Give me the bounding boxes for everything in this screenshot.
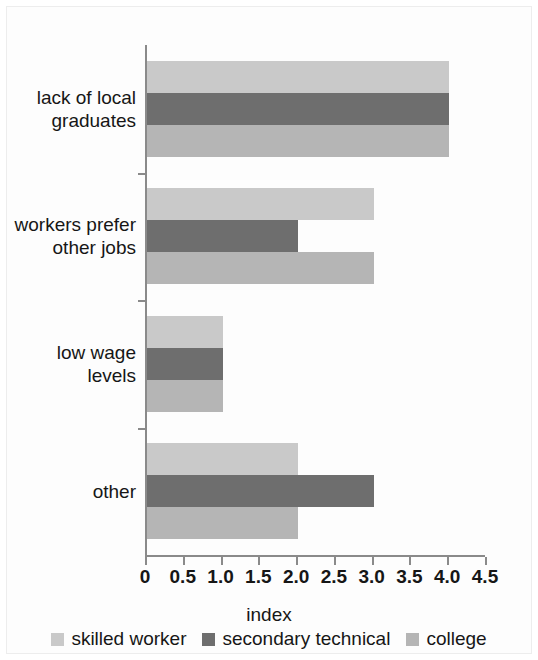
x-axis-line — [145, 555, 485, 557]
x-axis-tick-label: 0 — [140, 566, 151, 588]
category-label: other — [0, 480, 136, 503]
legend-item[interactable]: secondary technical — [202, 628, 390, 650]
bar[interactable] — [147, 220, 298, 252]
legend-item[interactable]: skilled worker — [51, 628, 186, 650]
x-axis-tick-label: 3.5 — [396, 566, 422, 588]
category-axis-tick — [138, 173, 145, 175]
plot-area: 00.51.01.52.02.53.03.54.04.5 — [145, 45, 485, 555]
bar[interactable] — [147, 61, 449, 93]
legend-label: secondary technical — [222, 628, 390, 650]
bar[interactable] — [147, 93, 449, 125]
x-axis-tick — [183, 557, 185, 565]
x-axis-tick — [258, 557, 260, 565]
x-axis-tick — [221, 557, 223, 565]
x-axis-tick — [447, 557, 449, 565]
x-axis-tick-label: 3.0 — [358, 566, 384, 588]
x-axis-tick-label: 1.5 — [245, 566, 271, 588]
x-axis-tick-label: 2.5 — [321, 566, 347, 588]
x-axis-tick-label: 1.0 — [207, 566, 233, 588]
bar[interactable] — [147, 252, 374, 284]
category-label: lack of local graduates — [0, 86, 136, 132]
bar-group — [147, 188, 485, 284]
legend-label: college — [426, 628, 486, 650]
x-axis-tick — [296, 557, 298, 565]
bar[interactable] — [147, 348, 223, 380]
x-axis-tick — [485, 557, 487, 565]
category-axis-tick — [138, 300, 145, 302]
x-axis-tick-label: 4.5 — [472, 566, 498, 588]
category-label: low wage levels — [0, 341, 136, 387]
x-axis-tick — [372, 557, 374, 565]
category-axis-labels: lack of local graduatesworkers prefer ot… — [0, 45, 136, 555]
bar[interactable] — [147, 125, 449, 157]
legend-swatch-icon — [51, 633, 64, 646]
x-axis-tick-label: 4.0 — [434, 566, 460, 588]
category-axis-tick — [138, 428, 145, 430]
category-label: workers prefer other jobs — [0, 213, 136, 259]
bar-group — [147, 61, 485, 157]
x-axis-tick — [334, 557, 336, 565]
bar-group — [147, 316, 485, 412]
legend-swatch-icon — [202, 633, 215, 646]
bar[interactable] — [147, 188, 374, 220]
x-axis-tick — [145, 557, 147, 565]
x-axis-tick-label: 2.0 — [283, 566, 309, 588]
bar[interactable] — [147, 507, 298, 539]
chart-legend: skilled workersecondary technicalcollege — [0, 628, 538, 650]
legend-label: skilled worker — [71, 628, 186, 650]
bar-group — [147, 443, 485, 539]
chart-figure: lack of local graduatesworkers prefer ot… — [0, 0, 538, 660]
legend-swatch-icon — [406, 633, 419, 646]
bar[interactable] — [147, 475, 374, 507]
x-axis-tick — [409, 557, 411, 565]
x-axis-title: index — [0, 604, 538, 626]
legend-item[interactable]: college — [406, 628, 486, 650]
x-axis-tick-label: 0.5 — [170, 566, 196, 588]
bar[interactable] — [147, 380, 223, 412]
bar[interactable] — [147, 443, 298, 475]
bar[interactable] — [147, 316, 223, 348]
